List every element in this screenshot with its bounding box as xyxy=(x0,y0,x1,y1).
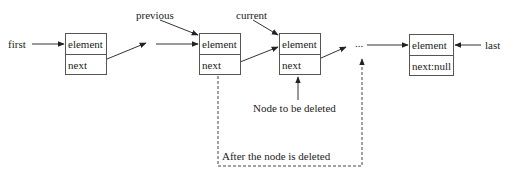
node-next-field: next:null xyxy=(410,56,453,76)
node-to-delete-label: Node to be deleted xyxy=(253,102,336,115)
ellipsis-label: ... xyxy=(355,37,363,50)
node-next-field: next xyxy=(280,55,320,75)
previous-label: previous xyxy=(136,9,174,22)
last-label: last xyxy=(485,39,500,52)
list-node-previous: element next xyxy=(199,33,241,75)
previous-pointer-arrow xyxy=(160,20,198,35)
node-element-field: element xyxy=(410,35,453,56)
after-deletion-label: After the node is deleted xyxy=(222,150,330,163)
current-label: current xyxy=(236,9,267,22)
first-label: first xyxy=(8,38,26,51)
current-pointer-arrow xyxy=(253,20,278,35)
node-next-field: next xyxy=(66,55,106,75)
list-node-last: element next:null xyxy=(409,34,454,76)
list-node-1: element next xyxy=(65,33,107,75)
list-node-current: element next xyxy=(279,33,321,75)
node-element-field: element xyxy=(280,34,320,55)
node-next-field: next xyxy=(200,55,240,75)
node-element-field: element xyxy=(200,34,240,55)
node-element-field: element xyxy=(66,34,106,55)
